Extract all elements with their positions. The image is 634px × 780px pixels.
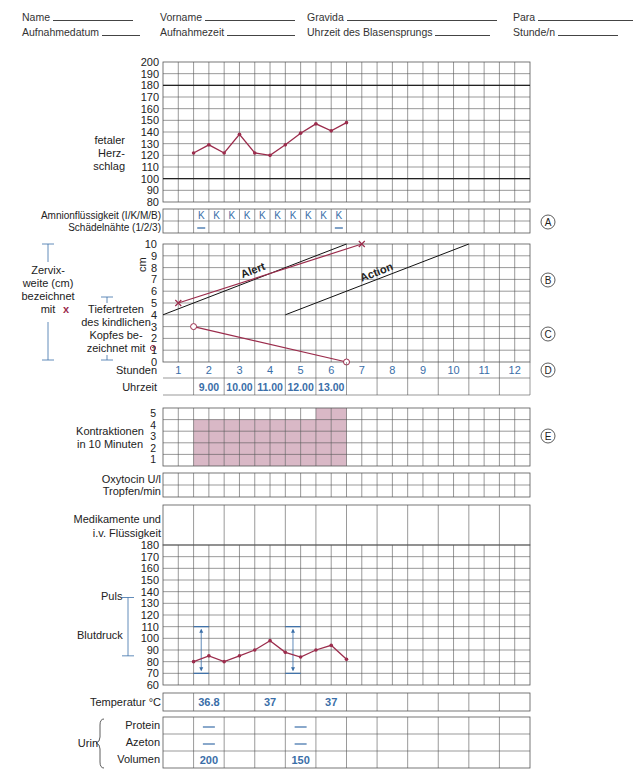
uhrzeit-value: 13.00 [318, 381, 344, 393]
urine-row-label: Volumen [117, 753, 160, 765]
amnion-fluid-value: K [259, 210, 266, 221]
urine-value: 150 [291, 754, 309, 766]
fhr-y-tick: 120 [141, 149, 159, 161]
amnion-fluid-label: Amnionflüssigkeit (I/K/M/B) [41, 210, 161, 221]
pulse-point [192, 660, 196, 664]
contractions-section [163, 408, 530, 466]
contractions-label: in 10 Minuten [77, 438, 143, 450]
oxytocin-label: Tropfen/min [103, 485, 161, 497]
amnion-fluid-value: K [336, 210, 343, 221]
fhr-point [253, 151, 257, 155]
vitals-y-tick: 180 [141, 539, 159, 551]
fhr-y-tick: 190 [141, 68, 159, 80]
fhr-y-tick: 200 [141, 56, 159, 68]
urine-row-label: Azeton [126, 736, 160, 748]
marker-d-letter: D [544, 365, 551, 376]
amnion-fluid-value: K [228, 210, 235, 221]
amnion-fluid-value: K [244, 210, 251, 221]
urine-value: 200 [200, 754, 218, 766]
uhrzeit-label: Uhrzeit [122, 381, 157, 393]
amnion-fluid-value: K [320, 210, 327, 221]
marker-c-letter: C [544, 329, 551, 340]
stunden-value: 7 [359, 364, 365, 376]
vitals-y-tick: 110 [141, 621, 159, 633]
uhrzeit-value: 10.00 [226, 381, 252, 393]
fhr-y-tick: 150 [141, 114, 159, 126]
fhr-y-tick: 170 [141, 91, 159, 103]
pulse-point [253, 648, 257, 652]
stunden-value: 6 [328, 364, 334, 376]
fhr-point [329, 129, 333, 133]
contraction-y-tick: 1 [150, 453, 156, 465]
cervix-y-tick: 6 [151, 285, 157, 297]
cervix-y-tick: 1 [151, 344, 157, 356]
stunden-value: 11 [478, 364, 489, 376]
uhrzeit-value: 9.00 [199, 381, 220, 393]
pulse-point [314, 648, 318, 652]
vitals-y-tick: 90 [147, 644, 159, 656]
contractions-label: Kontraktionen [76, 425, 144, 437]
blutdruck-label: Blutdruck [77, 629, 123, 641]
fhr-point [345, 121, 349, 125]
fhr-y-tick: 130 [141, 138, 159, 150]
cervix-y-tick: 3 [151, 321, 157, 333]
vitals-y-tick: 80 [147, 656, 159, 668]
amnion-fluid-value: K [274, 210, 281, 221]
cervix-label: weite (cm) [22, 277, 74, 289]
uhrzeit-value: 11.00 [257, 381, 283, 393]
arrow-down-icon [291, 667, 295, 671]
pulse-point [299, 655, 303, 659]
stunden-value: 1 [175, 364, 181, 376]
fhr-point [299, 131, 303, 135]
temperature-value: 37 [325, 696, 337, 708]
medication-label: Medikamente und [74, 513, 161, 525]
cervix-y-tick: 7 [151, 273, 157, 285]
head-label: zeichnet mit [87, 342, 146, 354]
arrow-up-icon [199, 629, 203, 633]
head-label: Tiefertreten [88, 303, 144, 315]
puls-label: Puls [101, 590, 123, 602]
pulse-point [284, 651, 288, 655]
vitals-y-tick: 60 [147, 679, 159, 691]
cervix-y-tick: 5 [151, 297, 157, 309]
amnion-fluid-value: K [305, 210, 312, 221]
stunden-value: 5 [298, 364, 304, 376]
contraction-y-tick: 3 [150, 430, 156, 442]
arrow-up-icon [291, 629, 295, 633]
cervix-symbol: x [63, 303, 70, 315]
contraction-y-tick: 2 [150, 442, 156, 454]
pulse-point [268, 639, 272, 643]
pulse-point [207, 654, 211, 658]
arrow-down-icon [199, 667, 203, 671]
contraction-y-tick: 4 [150, 419, 156, 431]
vitals-section [122, 545, 530, 685]
vitals-y-tick: 120 [141, 609, 159, 621]
fhr-y-tick: 90 [147, 184, 159, 196]
stunden-value: 9 [420, 364, 426, 376]
temperature-value: 36.8 [198, 696, 219, 708]
urine-row-label: Protein [125, 719, 160, 731]
cervix-label: Zervix- [31, 264, 65, 276]
fhr-y-tick: 100 [141, 173, 159, 185]
urine-section [96, 717, 530, 768]
uhrzeit-value: 12.00 [287, 381, 313, 393]
temperature-value: 37 [264, 696, 276, 708]
stunden-value: 2 [206, 364, 212, 376]
fhr-y-tick: 140 [141, 126, 159, 138]
head-label: Kopfes be- [89, 329, 143, 341]
contraction-bar [316, 408, 331, 466]
medication-label: i.v. Flüssigkeit [93, 527, 161, 539]
head-label: des kindlichen [81, 316, 151, 328]
fhr-point [238, 133, 242, 137]
cervix-y-tick: 8 [151, 262, 157, 274]
urine-label: Urin [78, 737, 98, 749]
fhr-label: schlag [93, 160, 125, 172]
vitals-y-tick: 100 [141, 632, 159, 644]
temperature-label: Temperatur °C [90, 696, 161, 708]
cervix-label: mit [41, 303, 56, 315]
cervix-y-tick: 10 [145, 238, 157, 250]
fhr-point [222, 151, 226, 155]
head-o-marker [191, 324, 197, 330]
pulse-point [222, 660, 226, 664]
fhr-label: fetaler [94, 134, 125, 146]
